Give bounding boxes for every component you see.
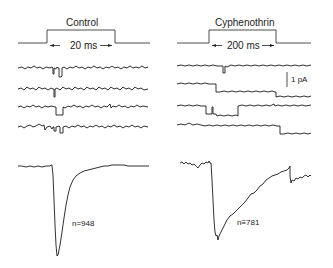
control-pulse-duration: 20 ms bbox=[68, 41, 99, 51]
control-title: Control bbox=[66, 18, 98, 28]
scale-bar-label: 1 pA bbox=[291, 76, 307, 84]
control-single-channel-traces bbox=[18, 66, 148, 133]
figure: Control 20 ms Cyphenothrin 200 ms 1 pA n… bbox=[0, 0, 333, 268]
cyphenothrin-pulse-duration: 200 ms bbox=[225, 41, 262, 51]
cyphenothrin-ensemble-average bbox=[180, 161, 311, 240]
cyphenothrin-n-count: n≡781 bbox=[237, 219, 259, 227]
cyphenothrin-title: Cyphenothrin bbox=[215, 18, 274, 28]
control-n-count: n=948 bbox=[72, 220, 94, 228]
figure-traces bbox=[0, 0, 333, 268]
control-ensemble-average bbox=[18, 165, 149, 256]
